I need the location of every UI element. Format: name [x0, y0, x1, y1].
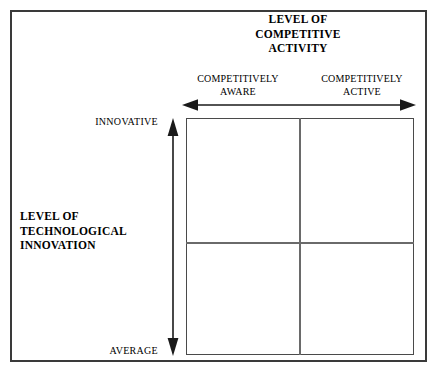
column-header-left-line-1: COMPETITIVELY — [173, 72, 303, 85]
left-axis-title: LEVEL OF TECHNOLOGICAL INNOVATION — [20, 209, 160, 253]
left-axis-title-line-3: INNOVATION — [20, 238, 160, 253]
matrix-diagram-figure: LEVEL OF COMPETITIVE ACTIVITY LEVEL OF T… — [0, 0, 437, 373]
column-header-right-line-1: COMPETITIVELY — [297, 72, 427, 85]
horizontal-axis-arrow-icon — [180, 96, 418, 114]
left-axis-title-line-1: LEVEL OF — [20, 209, 160, 224]
vertical-axis-label-top: INNOVATIVE — [58, 116, 158, 127]
top-axis-title-line-2: COMPETITIVE — [218, 27, 378, 42]
matrix-vertical-divider — [299, 118, 301, 355]
top-axis-title-line-3: ACTIVITY — [218, 41, 378, 56]
column-header-competitively-aware: COMPETITIVELY AWARE — [173, 72, 303, 98]
matrix-horizontal-divider — [186, 242, 414, 244]
top-axis-title: LEVEL OF COMPETITIVE ACTIVITY — [218, 12, 378, 56]
top-axis-title-line-1: LEVEL OF — [218, 12, 378, 27]
left-axis-title-line-2: TECHNOLOGICAL — [20, 224, 160, 239]
column-header-competitively-active: COMPETITIVELY ACTIVE — [297, 72, 427, 98]
vertical-axis-label-bottom: AVERAGE — [58, 345, 158, 356]
vertical-axis-arrow-icon — [164, 116, 182, 358]
